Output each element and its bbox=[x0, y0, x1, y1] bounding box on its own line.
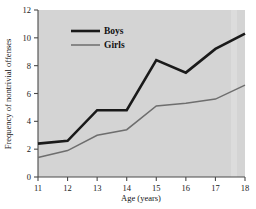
y-tick-label: 6 bbox=[27, 89, 31, 99]
y-axis-title: Frequency of nontrivial offenses bbox=[3, 39, 13, 150]
x-axis-title: Age (years) bbox=[121, 193, 161, 203]
x-tick-label: 18 bbox=[241, 183, 250, 193]
x-tick-label: 17 bbox=[211, 183, 220, 193]
x-tick-label: 15 bbox=[152, 183, 161, 193]
x-tick-label: 13 bbox=[93, 183, 102, 193]
chart-figure: 024681012 1112131415161718 Boys Girls Ag… bbox=[0, 0, 256, 209]
plot-vertical-band bbox=[231, 10, 237, 177]
line-chart-canvas: 024681012 1112131415161718 Boys Girls Ag… bbox=[0, 0, 256, 209]
y-tick-label: 8 bbox=[27, 61, 31, 71]
x-axis-ticks: 1112131415161718 bbox=[34, 177, 249, 193]
y-tick-label: 4 bbox=[27, 116, 32, 126]
x-tick-label: 16 bbox=[182, 183, 191, 193]
x-tick-label: 12 bbox=[63, 183, 72, 193]
y-tick-label: 0 bbox=[27, 172, 31, 182]
y-tick-label: 10 bbox=[23, 33, 32, 43]
plot-background bbox=[38, 10, 245, 177]
legend-label-girls: Girls bbox=[104, 40, 125, 50]
y-axis-ticks: 024681012 bbox=[23, 5, 39, 182]
legend-label-boys: Boys bbox=[104, 26, 124, 36]
x-tick-label: 11 bbox=[34, 183, 42, 193]
x-tick-label: 14 bbox=[122, 183, 131, 193]
y-tick-label: 12 bbox=[23, 5, 32, 15]
y-tick-label: 2 bbox=[27, 144, 31, 154]
